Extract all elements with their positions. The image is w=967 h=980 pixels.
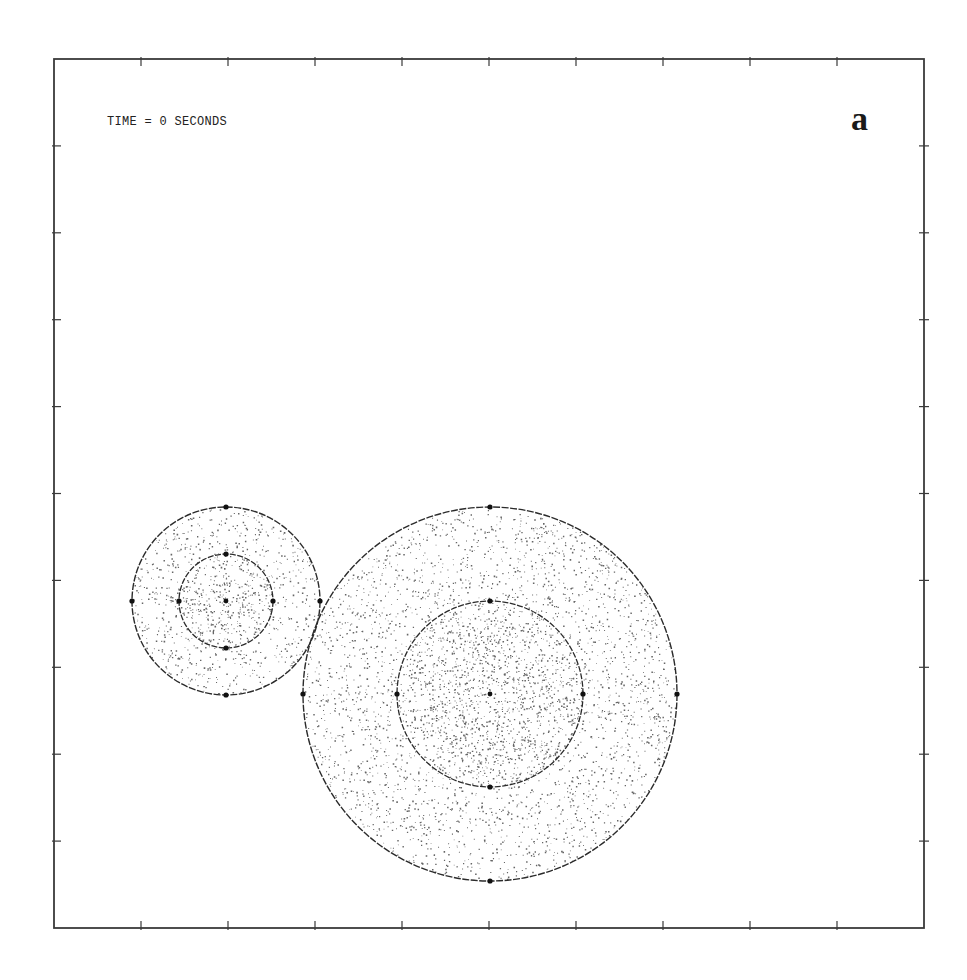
marker-point bbox=[317, 598, 322, 603]
marker-point bbox=[223, 504, 228, 509]
marker-point bbox=[487, 504, 492, 509]
frame-border bbox=[54, 59, 924, 928]
marker-point bbox=[487, 598, 492, 603]
marker-point bbox=[394, 691, 399, 696]
marker-point bbox=[300, 691, 305, 696]
particle-bodies bbox=[129, 504, 679, 883]
marker-point bbox=[674, 691, 679, 696]
axis-ticks bbox=[52, 57, 929, 930]
marker-point bbox=[487, 784, 492, 789]
marker-point bbox=[129, 598, 134, 603]
marker-point bbox=[176, 598, 181, 603]
marker-point bbox=[580, 691, 585, 696]
marker-point bbox=[488, 692, 493, 697]
simulation-plot bbox=[0, 0, 967, 980]
marker-point bbox=[223, 692, 228, 697]
marker-point bbox=[270, 598, 275, 603]
marker-point bbox=[223, 551, 228, 556]
panel-label: a bbox=[851, 102, 868, 136]
plot-frame bbox=[54, 59, 924, 928]
marker-point bbox=[223, 645, 228, 650]
marker-point bbox=[487, 878, 492, 883]
marker-point bbox=[224, 599, 229, 604]
body-large bbox=[300, 504, 679, 883]
body-small bbox=[129, 504, 322, 697]
time-label: TIME = 0 SECONDS bbox=[107, 115, 227, 129]
